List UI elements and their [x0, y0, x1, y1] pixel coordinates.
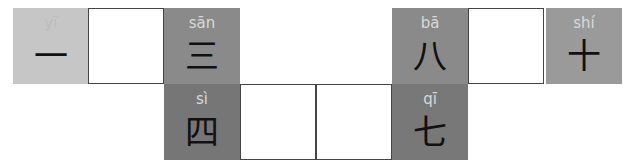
pinyin-label: sān: [189, 14, 216, 32]
pinyin-label: sì: [196, 90, 208, 108]
number-card-qi: qī七: [392, 84, 468, 160]
pinyin-label: yī: [44, 14, 57, 32]
hanzi-character: 四: [185, 112, 219, 152]
blank-answer-box[interactable]: [88, 8, 164, 84]
pinyin-label: qī: [423, 90, 437, 108]
pinyin-label: bā: [421, 14, 440, 32]
hanzi-character: 十: [567, 36, 601, 76]
hanzi-character: 一: [34, 36, 68, 76]
hanzi-character: 三: [185, 36, 219, 76]
number-card-si: sì四: [164, 84, 240, 160]
blank-answer-box[interactable]: [468, 8, 544, 84]
pinyin-label: shí: [573, 14, 595, 32]
number-card-shi: shí十: [546, 8, 622, 84]
number-card-san: sān三: [164, 8, 240, 84]
number-card-ba: bā八: [392, 8, 468, 84]
hanzi-character: 八: [413, 36, 447, 76]
number-card-yi: yī一: [13, 8, 89, 84]
blank-answer-box[interactable]: [316, 84, 392, 160]
blank-answer-box[interactable]: [240, 84, 316, 160]
hanzi-character: 七: [413, 112, 447, 152]
